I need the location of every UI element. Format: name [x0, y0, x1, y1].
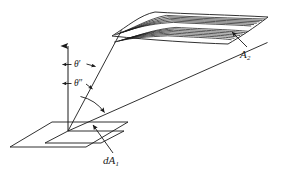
a2-leader-line [232, 32, 247, 47]
wavy-surface-a2 [112, 12, 268, 44]
sight-rays [68, 31, 268, 132]
angle-label-theta-prime: θ′ [74, 60, 81, 70]
a2-symbol: A [240, 48, 247, 60]
surface-label-a2: A2 [240, 49, 250, 62]
angle-arc [81, 97, 105, 113]
da1-symbol: dA [103, 154, 115, 166]
ray-lower [68, 43, 268, 132]
da1-subscript: 1 [115, 160, 118, 167]
theta-double-prime-marks: ″ [79, 78, 83, 88]
a2-subscript: 2 [247, 54, 250, 61]
differential-element-da1 [45, 131, 124, 143]
element-label-da1: dA1 [103, 155, 119, 168]
theta-prime-marks: ′ [79, 59, 81, 69]
angle-label-theta-double-prime: θ″ [74, 79, 82, 89]
radiation-geometry-figure: θ′ θ″ A2 dA1 [0, 0, 281, 177]
da1-leader-line [93, 125, 113, 153]
figure-canvas [0, 0, 281, 177]
